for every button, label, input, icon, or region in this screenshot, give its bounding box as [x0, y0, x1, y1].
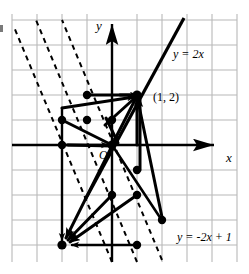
y-axis-label: y — [96, 18, 102, 34]
marked-point — [58, 141, 66, 149]
marked-point — [133, 166, 141, 174]
line1-label: y = 2x — [173, 47, 204, 62]
marked-point — [132, 90, 141, 99]
cobweb-diagram-figure: y x O y = 2x (1, 2) y = -2x + 1 — [0, 0, 249, 274]
origin-label: O — [99, 148, 108, 163]
marked-point — [158, 216, 166, 224]
marked-point — [133, 191, 141, 199]
marked-point — [83, 116, 91, 124]
fixed-point-label: (1, 2) — [153, 90, 179, 105]
marked-point — [108, 116, 116, 124]
marked-point — [57, 240, 66, 249]
marked-point — [83, 91, 91, 99]
marked-point — [133, 241, 141, 249]
marked-point — [58, 116, 66, 124]
x-axis-label: x — [226, 150, 232, 166]
marked-point — [108, 191, 116, 199]
marked-point — [107, 140, 116, 149]
line2-label: y = -2x + 1 — [177, 230, 232, 245]
